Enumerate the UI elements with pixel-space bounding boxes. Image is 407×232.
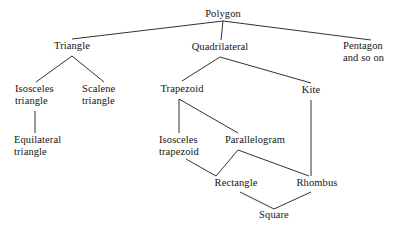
node-label-rectangle: Rectangle [215,177,258,188]
edge-quadrilateral-kite [220,57,311,83]
node-label-pentagon: Pentagon [343,40,384,51]
node-label-scalene-2: triangle [82,95,115,106]
edge-iso-trapezoid-rectangle [186,159,216,176]
node-label-kite: Kite [302,84,321,95]
node-label-parallelogram: Parallelogram [225,134,285,145]
node-label-equilateral: Equilateral [14,134,61,145]
edge-triangle-scalene [72,56,104,82]
edge-parallelogram-rhombus [238,150,309,176]
edge-polygon-quadrilateral [221,21,223,40]
node-label-equilateral-2: triangle [14,146,47,157]
node-label-triangle: Triangle [54,40,90,51]
edge-rectangle-square [240,192,274,209]
node-label-iso-trapezoid: Isosceles [159,134,198,145]
node-label-polygon: Polygon [205,8,241,19]
edge-parallelogram-rectangle [216,150,238,176]
node-label-quadrilateral: Quadrilateral [192,41,249,52]
nodes-layer: PolygonTriangleQuadrilateralPentagonand … [14,8,385,220]
node-label-isosceles: Isosceles [15,83,54,94]
diagram-canvas: PolygonTriangleQuadrilateralPentagonand … [0,0,407,232]
node-label-rhombus: Rhombus [297,177,338,188]
edge-polygon-triangle [72,21,223,39]
node-label-square: Square [259,209,289,220]
node-label-iso-trapezoid-2: trapezoid [159,146,200,157]
node-label-scalene: Scalene [82,83,116,94]
edge-triangle-isosceles [36,56,72,82]
node-label-and-so-on: and so on [343,52,385,63]
edge-rhombus-square [274,192,311,209]
polygon-hierarchy-diagram: PolygonTriangleQuadrilateralPentagonand … [0,0,407,232]
edge-quadrilateral-trapezoid [182,57,220,81]
node-label-isosceles-2: triangle [15,95,48,106]
edge-polygon-pentagon [223,21,371,40]
node-label-trapezoid: Trapezoid [160,83,204,94]
edge-trapezoid-parallelogram [179,99,238,133]
